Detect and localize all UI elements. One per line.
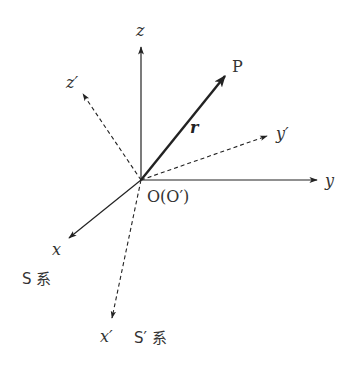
coordinate-diagram: z y x z′ y′ x′ P r O(O′) S 系 S′ 系 [0, 0, 356, 377]
z-axis-label: z [135, 21, 145, 40]
y-prime-axis-label: y′ [275, 124, 289, 143]
frame-s-label: S 系 [22, 270, 51, 288]
origin-label: O(O′) [147, 187, 189, 206]
frame-s-prime-label: S′ 系 [134, 329, 167, 347]
point-p-label: P [232, 57, 243, 76]
vector-r-label: r [190, 118, 200, 137]
z-prime-axis-label: z′ [65, 73, 78, 92]
y-axis-label: y [324, 171, 335, 190]
x-prime-axis-label: x′ [100, 327, 113, 346]
z-prime-axis [83, 94, 141, 180]
x-axis-label: x [52, 240, 61, 259]
x-prime-axis [112, 180, 141, 318]
position-vector-r [141, 76, 225, 180]
